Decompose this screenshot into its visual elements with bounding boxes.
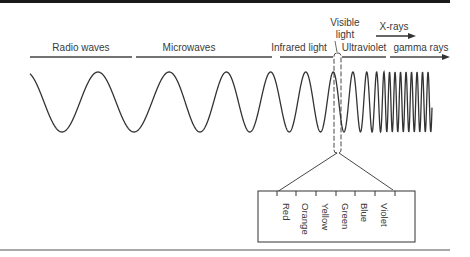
xrays-label: X-rays — [380, 21, 409, 32]
top-border — [0, 0, 450, 3]
visible-label-line1: Visible — [330, 17, 360, 28]
visible-dashed-box — [334, 53, 341, 153]
color-yellow: Yellow — [320, 203, 331, 230]
em-wave — [30, 72, 432, 132]
band-label-radio: Radio waves — [52, 42, 109, 53]
expand-line-left — [277, 153, 337, 192]
gamma-arrow-head — [442, 54, 450, 60]
band-label-infrared: Infrared light — [271, 42, 327, 53]
band-label-ultraviolet: Ultraviolet — [342, 42, 387, 53]
color-green: Green — [340, 203, 351, 229]
color-orange: Orange — [300, 203, 311, 235]
visible-pointer — [335, 41, 337, 52]
color-red: Red — [281, 203, 292, 220]
band-label-gamma: gamma rays — [393, 42, 448, 53]
em-spectrum-diagram: Radio waves Microwaves Infrared light Ul… — [0, 0, 470, 257]
visible-label-line2: light — [336, 29, 355, 40]
xrays-arrow-head — [408, 33, 416, 39]
color-violet: Violet — [379, 203, 390, 227]
expand-line-right — [339, 153, 393, 190]
band-label-microwaves: Microwaves — [163, 42, 216, 53]
color-blue: Blue — [359, 203, 370, 222]
